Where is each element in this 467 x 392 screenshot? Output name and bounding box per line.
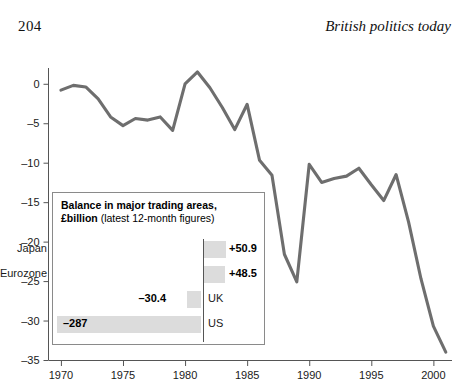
- bar-japan: [204, 241, 226, 258]
- y-tick-label: –15: [21, 196, 39, 208]
- y-tick-label: –35: [21, 354, 39, 366]
- inset-title-units: £billion: [61, 212, 98, 224]
- y-tick-label: –30: [21, 315, 39, 327]
- bar-eurozone: [204, 266, 225, 283]
- x-tick-label: 1975: [111, 369, 135, 381]
- y-tick-label: –5: [27, 117, 39, 129]
- bar-label-eurozone: Eurozone: [0, 267, 47, 279]
- bar-label-uk: UK: [208, 292, 223, 304]
- bar-label-japan: Japan: [17, 242, 47, 254]
- x-tick-label: 1990: [297, 369, 321, 381]
- y-tick-label: 0: [33, 78, 39, 90]
- x-tick-label: 1970: [49, 369, 73, 381]
- bar-value-japan: +50.9: [229, 242, 257, 254]
- bar-value-us: –287: [63, 317, 87, 329]
- inset-title: Balance in major trading areas, £billion…: [61, 199, 258, 224]
- inset-title-line1: Balance in major trading areas,: [61, 199, 217, 211]
- bar-uk: [187, 291, 201, 308]
- y-tick-label: –10: [21, 157, 39, 169]
- bar-value-uk: –30.4: [138, 292, 166, 304]
- bar-label-us: US: [208, 317, 223, 329]
- bar-row-us: US –287: [53, 312, 264, 337]
- inset-title-note: (latest 12-month figures): [98, 212, 215, 224]
- inset-bar-chart: Japan +50.9 Eurozone +48.5 UK –30.4 US –…: [53, 237, 264, 342]
- x-axis-ticks: 1970197519801985199019952000: [49, 360, 446, 381]
- bar-row-uk: UK –30.4: [53, 287, 264, 312]
- x-tick-label: 1995: [359, 369, 383, 381]
- x-tick-label: 2000: [421, 369, 445, 381]
- x-tick-label: 1985: [235, 369, 259, 381]
- y-axis-ticks: 0–5–10–15–20–25–30–35: [21, 78, 48, 366]
- bar-value-eurozone: +48.5: [229, 267, 257, 279]
- inset-panel: Balance in major trading areas, £billion…: [52, 192, 265, 345]
- bar-row-eurozone: Eurozone +48.5: [53, 262, 264, 287]
- bar-row-japan: Japan +50.9: [53, 237, 264, 262]
- page-canvas: 204 British politics today 0–5–10–15–20–…: [0, 0, 467, 392]
- x-tick-label: 1980: [173, 369, 197, 381]
